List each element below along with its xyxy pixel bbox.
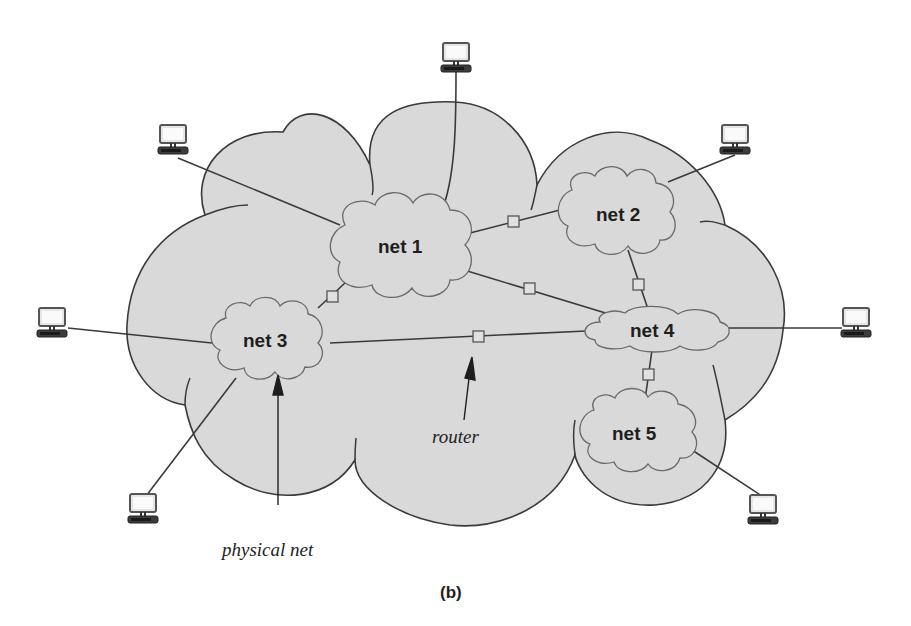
computer-icon	[841, 308, 871, 337]
router-box-icon	[327, 291, 338, 302]
computer-icon	[441, 43, 471, 72]
figure-caption: (b)	[440, 583, 462, 602]
router-box-icon	[508, 216, 519, 227]
physical-net-annotation: physical net	[220, 539, 314, 560]
network-label: net 1	[378, 236, 423, 257]
computer-icon	[128, 494, 158, 523]
network-net4: net 4	[585, 306, 729, 352]
internet-diagram: net 1 net 2 net 3 net 4 net 5	[0, 0, 911, 626]
network-label: net 2	[596, 204, 640, 225]
network-net3: net 3	[211, 297, 322, 379]
network-label: net 5	[612, 423, 657, 444]
computer-icon	[720, 125, 750, 154]
network-label: net 4	[630, 320, 675, 341]
network-label: net 3	[243, 330, 287, 351]
computer-icon	[37, 308, 67, 337]
router-box-icon	[524, 283, 535, 294]
router-annotation: router	[432, 426, 479, 447]
router-box-icon	[633, 279, 644, 290]
router-box-icon	[473, 331, 484, 342]
network-net1: net 1	[330, 193, 471, 298]
computer-icon	[748, 495, 778, 524]
computer-icon	[158, 125, 188, 154]
router-box-icon	[643, 369, 654, 380]
